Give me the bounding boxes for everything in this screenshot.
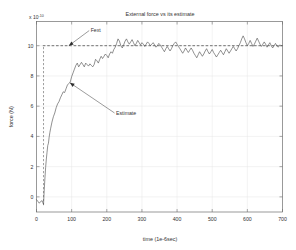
annotation-label: Estimate — [116, 110, 136, 116]
x-tick-label: 300 — [138, 216, 147, 222]
y-tick-label: 2 — [31, 164, 34, 170]
figure-background — [0, 0, 296, 250]
x-tick-label: 700 — [278, 216, 287, 222]
y-tick-label: 10 — [28, 43, 34, 49]
x-tick-label: 400 — [173, 216, 182, 222]
x-tick-label: 600 — [243, 216, 252, 222]
exponent-power: -10 — [38, 14, 43, 18]
exponent-base: x 10 — [29, 14, 39, 20]
chart-figure: External force vs its estimate x 10-10 0… — [0, 0, 296, 250]
x-tick-label: 0 — [35, 216, 38, 222]
x-tick-label: 500 — [208, 216, 217, 222]
annotation-label: Fext — [91, 27, 102, 33]
chart-title: External force vs its estimate — [126, 11, 195, 17]
y-axis-label: force (N) — [8, 106, 14, 127]
y-tick-label: 8 — [31, 73, 34, 79]
x-tick-label: 100 — [67, 216, 76, 222]
x-axis-label: time (1e-6sec) — [143, 236, 178, 242]
external-force-plot: External force vs its estimate x 10-10 0… — [0, 0, 296, 250]
y-tick-label: 0 — [31, 194, 34, 200]
y-tick-label: 6 — [31, 103, 34, 109]
y-tick-label: 4 — [31, 133, 34, 139]
x-tick-label: 200 — [102, 216, 111, 222]
